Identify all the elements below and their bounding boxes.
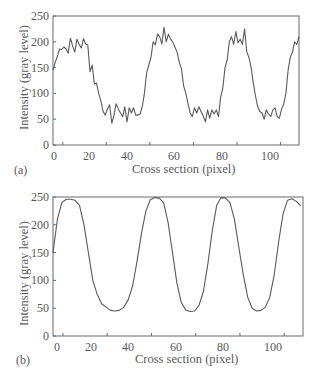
chart-a-x-tick-label: 0 [51, 149, 57, 163]
chart-b-panel-label: (b) [16, 353, 30, 368]
chart-a-y-tick-label: 150 [31, 61, 49, 75]
chart-a-y-tick-label: 100 [31, 86, 49, 100]
chart-a-y-tick-label: 50 [37, 112, 49, 126]
chart-a-y-tick-label: 250 [31, 9, 49, 23]
chart-b-y-tick-label: 250 [31, 190, 49, 204]
chart-a-x-tick-label: 20 [83, 149, 95, 163]
chart-b-x-tick-label: 100 [264, 340, 282, 354]
chart-b-y-tick-label: 150 [31, 246, 49, 260]
chart-a-x-tick-label: 60 [168, 149, 180, 163]
chart-a-y-tick-label: 0 [43, 138, 49, 152]
chart-a-data-line [53, 27, 299, 123]
chart-b-x-axis-label: Cross section (pixel) [135, 352, 238, 367]
chart-a-y-tick-label: 200 [31, 35, 49, 49]
chart-a-panel-label: (a) [14, 163, 27, 178]
chart-a-x-tick-label: 40 [121, 149, 133, 163]
chart-a-x-tick-label: 100 [261, 149, 279, 163]
chart-b-x-tick-label: 40 [122, 340, 134, 354]
chart-a-y-axis-label: Intensity (gray level) [17, 18, 32, 138]
chart-b-x-tick-label: 20 [85, 340, 97, 354]
chart-b-y-tick-label: 0 [43, 329, 49, 343]
chart-b-data-line [53, 198, 301, 312]
chart-b-y-tick-label: 50 [37, 301, 49, 315]
chart-a-x-axis-label: Cross section (pixel) [132, 162, 235, 177]
chart-a-plot: 050100150200250020406080100 [0, 0, 317, 185]
chart-b-y-axis-label: Intensity (gray level) [17, 214, 32, 334]
chart-a-plot-frame [53, 16, 299, 145]
chart-b-x-tick-label: 0 [54, 340, 60, 354]
chart-a-x-tick-label: 80 [216, 149, 228, 163]
figure-b: 050100150200250020406080100 Intensity (g… [0, 188, 317, 380]
chart-b-y-tick-label: 100 [31, 273, 49, 287]
figure-a: 050100150200250020406080100 Intensity (g… [0, 0, 317, 185]
chart-b-y-tick-label: 200 [31, 218, 49, 232]
